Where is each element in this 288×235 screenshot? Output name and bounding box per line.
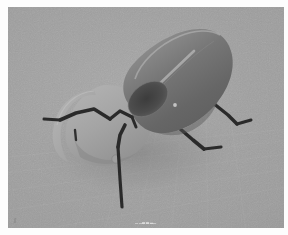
beetle-model: [8, 7, 284, 228]
image-frame: ▁▁▃▃▂▁ ʃʃ: [0, 0, 288, 235]
watermark-text: ▁▁▃▃▂▁: [135, 219, 157, 224]
horn-notch: [75, 130, 76, 140]
corner-mark: ʃʃ: [14, 217, 16, 223]
render-canvas: ▁▁▃▃▂▁ ʃʃ: [8, 7, 284, 228]
elytra-specular: [173, 103, 177, 107]
elytra: [121, 29, 232, 135]
